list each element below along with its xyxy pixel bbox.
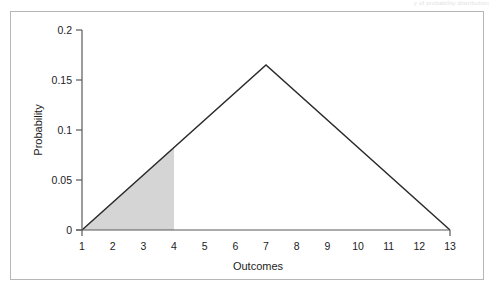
x-tick-label-11: 11 [383,240,394,252]
y-axis-group: 0.2 0.15 0.1 0.05 0 Probability [32,24,82,236]
x-tick-label-13: 13 [444,240,456,252]
x-tick-label-1: 1 [79,240,85,252]
y-tick-label-0: 0 [66,224,72,236]
y-tick-label-0.1: 0.1 [57,124,72,136]
x-tick-label-10: 10 [352,240,364,252]
x-tick-label-5: 5 [202,240,208,252]
x-tick-label-7: 7 [263,240,269,252]
y-tick-label-0.15: 0.15 [52,74,73,86]
x-tick-label-3: 3 [140,240,146,252]
x-tick-label-4: 4 [171,240,177,252]
x-tick-label-8: 8 [294,240,300,252]
y-axis-title: Probability [32,104,44,156]
probability-distribution-chart: 0.2 0.15 0.1 0.05 0 Probability 1 2 3 4 … [0,0,497,291]
y-tick-label-0.2: 0.2 [57,24,72,36]
x-tick-label-2: 2 [110,240,116,252]
y-tick-label-0.05: 0.05 [52,174,73,186]
x-tick-label-6: 6 [232,240,238,252]
x-axis-group: 1 2 3 4 5 6 7 8 9 10 11 12 13 Outcomes [76,230,456,272]
x-tick-label-9: 9 [324,240,330,252]
x-axis-title: Outcomes [233,260,284,272]
x-tick-label-12: 12 [413,240,425,252]
